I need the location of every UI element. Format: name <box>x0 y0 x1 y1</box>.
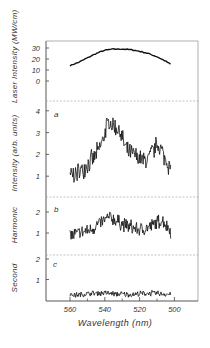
y-tick-label: 10 <box>32 66 41 75</box>
trace-b <box>70 212 171 239</box>
ylabel-second: Second <box>10 233 20 323</box>
y-tick-label: 0 <box>36 77 41 86</box>
stacked-spectra-figure: 010203012341212 560540520500 a b c <box>0 0 210 348</box>
y-tick-label: 2 <box>35 255 41 264</box>
y-tick-label: 3 <box>36 129 41 138</box>
trace-c <box>70 290 171 297</box>
x-ticks: 560540520500 <box>64 297 182 314</box>
x-tick-label: 560 <box>64 305 77 314</box>
y-tick-label: 30 <box>32 44 41 53</box>
y-tick-label: 20 <box>31 55 41 64</box>
ylabel-laser-intensity: Laser Intensity (MW/cm) <box>10 13 20 103</box>
panel-letter-c: c <box>53 260 57 269</box>
x-tick-label: 540 <box>99 305 112 314</box>
panel-letter-b: b <box>54 205 59 214</box>
x-tick-label: 520 <box>133 305 146 314</box>
y-tick-label: 2 <box>35 150 41 159</box>
xlabel-wavelength: Wavelength (nm) <box>0 318 210 328</box>
y-tick-label: 1 <box>36 229 40 238</box>
y-tick-label: 2 <box>35 208 41 217</box>
data-traces <box>70 49 171 298</box>
y-tick-label: 1 <box>36 276 40 285</box>
x-tick-label: 500 <box>168 305 181 314</box>
y-tick-label: 1 <box>36 172 40 181</box>
panel-letter-a: a <box>54 110 59 119</box>
trace-laser <box>70 49 171 66</box>
y-tick-label: 4 <box>36 107 40 116</box>
trace-a <box>70 118 171 183</box>
